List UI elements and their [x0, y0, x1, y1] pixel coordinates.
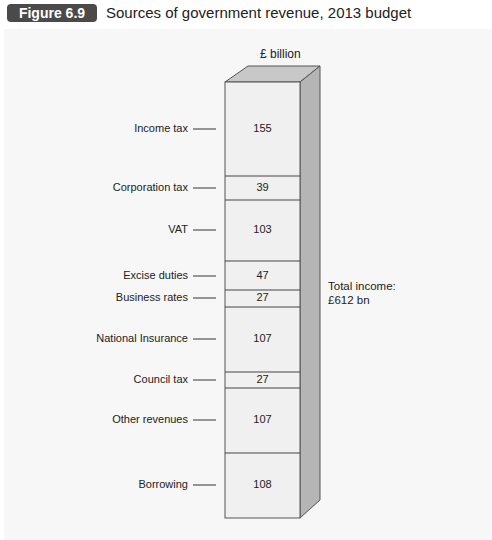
segment-value-vat: 103 [225, 223, 300, 235]
segment-label-borrowing: Borrowing [68, 478, 188, 490]
segment-label-national-insurance: National Insurance [68, 332, 188, 344]
total-income-label: Total income: [328, 279, 396, 293]
segment-label-vat: VAT [68, 223, 188, 235]
segment-value-council-tax: 27 [225, 373, 300, 385]
segment-value-excise-duties: 47 [225, 269, 300, 281]
total-income-annotation: Total income: £612 bn [328, 279, 396, 307]
segment-label-corporation-tax: Corporation tax [68, 181, 188, 193]
segment-label-excise-duties: Excise duties [68, 269, 188, 281]
segment-label-other-revenues: Other revenues [68, 413, 188, 425]
segment-value-income-tax: 155 [225, 122, 300, 134]
segment-label-council-tax: Council tax [68, 373, 188, 385]
segment-value-business-rates: 27 [225, 291, 300, 303]
segment-label-income-tax: Income tax [68, 122, 188, 134]
column-side-face [300, 66, 320, 518]
segment-value-national-insurance: 107 [225, 332, 300, 344]
leader-lines [193, 129, 216, 485]
total-income-value: £612 bn [328, 293, 396, 307]
segment-value-corporation-tax: 39 [225, 181, 300, 193]
segment-value-other-revenues: 107 [225, 413, 300, 425]
segment-label-business-rates: Business rates [68, 291, 188, 303]
segment-value-borrowing: 108 [225, 478, 300, 490]
